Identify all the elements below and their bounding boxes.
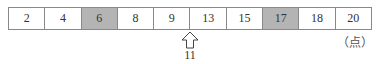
score-cell: 4 — [45, 8, 81, 29]
unit-label: （点） — [337, 33, 373, 51]
score-row: 2 4 6 8 9 13 15 17 18 20 — [8, 7, 372, 30]
score-cell: 18 — [299, 8, 335, 29]
score-cell: 9 — [154, 8, 190, 29]
score-cell: 20 — [336, 8, 371, 29]
score-cell: 8 — [118, 8, 154, 29]
score-cell-shaded: 17 — [263, 8, 299, 29]
up-arrow-icon — [181, 31, 199, 49]
score-cell: 2 — [9, 8, 45, 29]
median-label: 11 — [182, 48, 198, 63]
score-cell: 13 — [190, 8, 226, 29]
score-cell: 15 — [227, 8, 263, 29]
score-cell-shaded: 6 — [82, 8, 118, 29]
